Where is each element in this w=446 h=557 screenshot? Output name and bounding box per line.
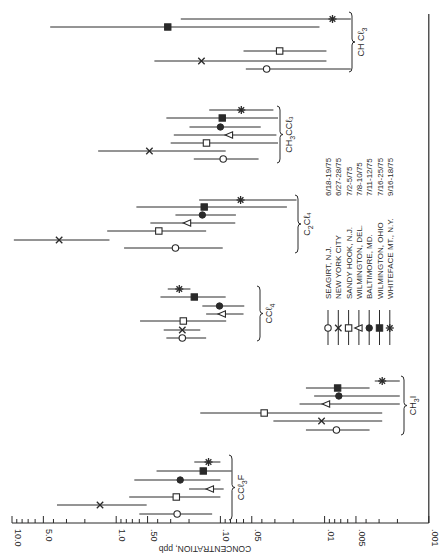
compound-group-c2cl4: C2Cℓ₄ xyxy=(14,195,314,253)
data-point xyxy=(174,132,277,138)
asterisk-marker xyxy=(237,196,245,204)
compound-label: CH Cℓ3 xyxy=(356,27,368,56)
open-circle-marker xyxy=(220,156,226,162)
group-bracket xyxy=(349,12,355,72)
compound-group-chcl3: CH Cℓ3 xyxy=(50,12,368,72)
data-point xyxy=(246,66,351,72)
tick-label: 1.0 xyxy=(117,529,127,542)
legend-site-label: BALTIMORE, MD. xyxy=(365,234,374,299)
filled-circle-marker xyxy=(216,303,222,309)
triangle-marker xyxy=(183,220,190,226)
group-bracket xyxy=(257,286,263,341)
data-point xyxy=(273,418,382,424)
filled-square-marker xyxy=(200,468,206,474)
asterisk-marker xyxy=(205,458,213,466)
legend-item: SEAGIRT, N.J.6/18-19/75 xyxy=(324,157,333,345)
open-circle-marker xyxy=(174,511,180,517)
legend-date-label: 7/16-25/75 xyxy=(376,157,385,196)
open-square-marker xyxy=(345,325,351,331)
filled-circle-marker xyxy=(177,477,183,483)
tick-label: .001 xyxy=(430,529,440,547)
tick-label: .05 xyxy=(253,529,263,542)
axis-title: CONCENTRATION, ppb xyxy=(159,544,252,554)
data-point xyxy=(199,196,296,204)
data-point xyxy=(375,377,400,385)
data-point xyxy=(98,148,226,154)
data-point xyxy=(136,204,287,210)
filled-square-marker xyxy=(376,325,382,331)
legend-site-label: SEAGIRT, N.J. xyxy=(324,246,333,299)
open-circle-marker xyxy=(333,427,339,433)
legend-date-label: 7/11-12/75 xyxy=(365,158,374,196)
compound-group-ch3i: CH3I xyxy=(200,376,420,435)
open-circle-marker xyxy=(325,325,331,331)
legend-item: BALTIMORE, MD.7/11-12/75 xyxy=(365,158,374,345)
asterisk-marker xyxy=(175,285,183,293)
group-bracket xyxy=(401,376,407,435)
legend-site-label: NEW YORK CITY xyxy=(334,234,343,299)
tick-label: .005 xyxy=(357,529,367,547)
compound-label: CH3I xyxy=(408,396,420,415)
data-point xyxy=(150,220,235,226)
data-point xyxy=(107,228,206,234)
data-point xyxy=(124,245,223,251)
data-point xyxy=(200,410,382,416)
compound-group-ccl4: CCℓ4 xyxy=(140,285,276,341)
data-point xyxy=(57,502,147,508)
compound-group-ccl3f: CCℓ3F xyxy=(57,455,248,520)
legend-date-label: 7/8-10/75 xyxy=(355,162,364,196)
asterisk-marker xyxy=(328,15,336,23)
data-point xyxy=(209,106,273,114)
data-point xyxy=(168,285,191,293)
filled-square-marker xyxy=(201,204,207,210)
open-square-marker xyxy=(173,494,179,500)
data-point xyxy=(314,393,400,399)
open-square-marker xyxy=(261,410,267,416)
legend-site-label: WILMINGTON, DEL. xyxy=(355,225,364,299)
legend: SEAGIRT, N.J.6/18-19/75NEW YORK CITY6/27… xyxy=(324,157,395,345)
tick-label: .01 xyxy=(326,529,336,542)
triangle-marker xyxy=(225,132,232,138)
legend-date-label: 9/16-18/75 xyxy=(386,157,395,196)
data-point xyxy=(181,15,351,23)
group-bracket xyxy=(295,195,301,253)
data-point xyxy=(194,156,259,162)
filled-circle-marker xyxy=(336,393,342,399)
data-point xyxy=(14,237,110,243)
triangle-marker xyxy=(218,311,225,317)
open-square-marker xyxy=(276,48,282,54)
data-point xyxy=(166,115,278,121)
open-circle-marker xyxy=(179,335,185,341)
legend-item: NEW YORK CITY6/27-28/75 xyxy=(334,157,343,345)
compound-group-ch3ccl3: CH3CCℓ₃ xyxy=(98,106,296,163)
filled-square-marker xyxy=(219,115,225,121)
legend-date-label: 6/18-19/75 xyxy=(324,157,333,196)
legend-item: WHITEFACE MT., N.Y.9/16-18/75 xyxy=(386,157,395,345)
data-point xyxy=(139,511,212,517)
filled-square-marker xyxy=(334,385,340,391)
x-axis: 10.05.01.0.50.10.05.01.005.001CONCENTRAT… xyxy=(12,516,440,554)
filled-square-marker xyxy=(191,294,197,300)
group-bracket xyxy=(229,455,235,520)
data-point xyxy=(189,124,260,130)
tick-label: 5.0 xyxy=(44,529,54,542)
legend-date-label: 7/2-5/75 xyxy=(345,166,354,196)
data-point xyxy=(206,311,243,317)
open-circle-marker xyxy=(172,245,178,251)
data-point xyxy=(50,24,319,30)
filled-square-marker xyxy=(165,24,171,30)
group-bracket xyxy=(277,106,283,163)
open-square-marker xyxy=(180,318,186,324)
data-point xyxy=(306,385,370,391)
legend-site-label: SANDY HOOK, N.J. xyxy=(345,227,354,299)
asterisk-marker xyxy=(237,106,245,114)
compound-label: CH3CCℓ₃ xyxy=(284,116,296,153)
data-point xyxy=(154,58,326,64)
data-point xyxy=(175,212,235,218)
legend-site-label: WHITEFACE MT., N.Y. xyxy=(386,218,395,299)
tick-label: 10.0 xyxy=(13,529,23,547)
tick-label: .10 xyxy=(221,529,231,542)
compound-label: CCℓ3F xyxy=(236,474,248,500)
tick-label: .50 xyxy=(149,529,159,542)
data-point xyxy=(164,327,201,333)
